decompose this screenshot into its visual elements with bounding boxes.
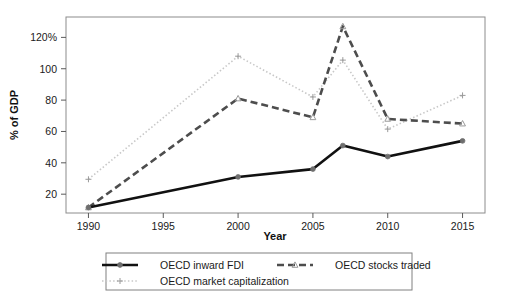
plot-area-border [66,17,485,213]
y-tick-label: 40 [45,157,57,169]
y-tick-label: 60 [45,125,57,137]
y-tick-label: 120% [30,31,57,43]
data-point [340,143,345,148]
y-axis-title: % of GDP [8,90,20,140]
x-axis-ticks [88,213,462,218]
y-axis-ticks [61,37,66,194]
y-tick-label: 100 [39,63,57,75]
y-tick-label: 80 [45,94,57,106]
chart-figure: 20406080100120% 199019952000200520102015… [0,0,508,297]
data-point [86,205,91,210]
x-tick-label: 2010 [376,220,400,232]
y-tick-label: 20 [45,188,57,200]
data-point [311,167,316,172]
legend-label: OECD market capitalization [160,275,289,287]
x-tick-label: 2005 [301,220,325,232]
legend-label: OECD inward FDI [160,259,244,271]
data-point [460,138,465,143]
x-tick-label: 2000 [226,220,250,232]
x-tick-label: 1990 [77,220,101,232]
data-point [385,154,390,159]
y-axis-tick-labels: 20406080100120% [30,31,57,200]
legend-label: OECD stocks traded [335,259,431,271]
line-chart: 20406080100120% 199019952000200520102015… [0,0,508,297]
legend-marker [118,263,123,268]
x-axis-title: Year [263,230,287,242]
x-tick-label: 2015 [451,220,475,232]
data-point [236,175,241,180]
x-tick-label: 1995 [152,220,176,232]
